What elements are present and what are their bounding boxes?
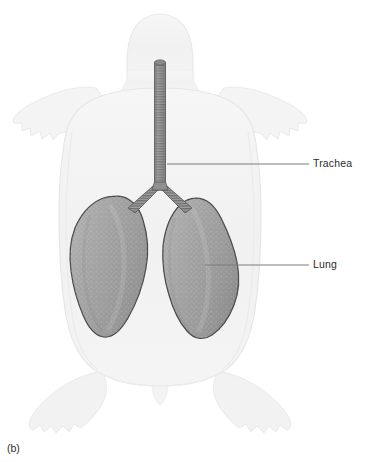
label-trachea: Trachea bbox=[313, 158, 352, 169]
anatomical-figure: Trachea Lung (b) bbox=[0, 0, 365, 462]
hind-limb-left bbox=[29, 372, 106, 433]
turtle-anatomy-illustration bbox=[0, 0, 365, 462]
label-lung: Lung bbox=[313, 259, 337, 270]
hind-limb-right bbox=[214, 372, 291, 433]
glottis bbox=[155, 60, 166, 65]
tracheal-bifurcation bbox=[152, 182, 168, 190]
panel-caption: (b) bbox=[7, 443, 20, 454]
turtle-tail bbox=[152, 386, 168, 405]
trachea-shading bbox=[155, 62, 166, 190]
